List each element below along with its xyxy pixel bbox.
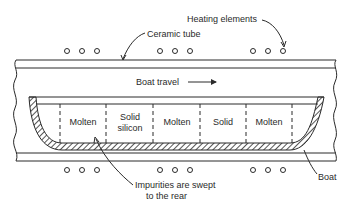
ceramic-tube-label: Ceramic tube bbox=[147, 29, 201, 39]
tube-right-break bbox=[334, 60, 337, 161]
zone-label-5: Molten bbox=[255, 117, 282, 127]
zone-label-3: Molten bbox=[163, 117, 190, 127]
zone-label-2a: Solid bbox=[120, 112, 140, 122]
boat-label: Boat bbox=[318, 172, 337, 182]
boat-travel-label: Boat travel bbox=[136, 77, 179, 87]
zone-label-4: Solid bbox=[213, 117, 233, 127]
heating-elements-top bbox=[65, 49, 286, 54]
tube-left-break bbox=[14, 60, 17, 161]
ceramic-tube-arrow bbox=[123, 33, 145, 59]
zone-label-2b: silicon bbox=[117, 123, 142, 133]
boat-label-arrow bbox=[304, 150, 317, 174]
zone-refining-diagram: Molten Solid silicon Molten Solid Molten… bbox=[0, 0, 351, 210]
heating-elements-arrow bbox=[262, 20, 284, 45]
impurities-label-line2: to the rear bbox=[146, 191, 187, 201]
heating-elements-label: Heating elements bbox=[187, 14, 258, 24]
impurities-label-line1: Impurities are swept bbox=[135, 180, 216, 190]
zone-label-1: Molten bbox=[69, 117, 96, 127]
heating-elements-bottom bbox=[65, 168, 286, 173]
